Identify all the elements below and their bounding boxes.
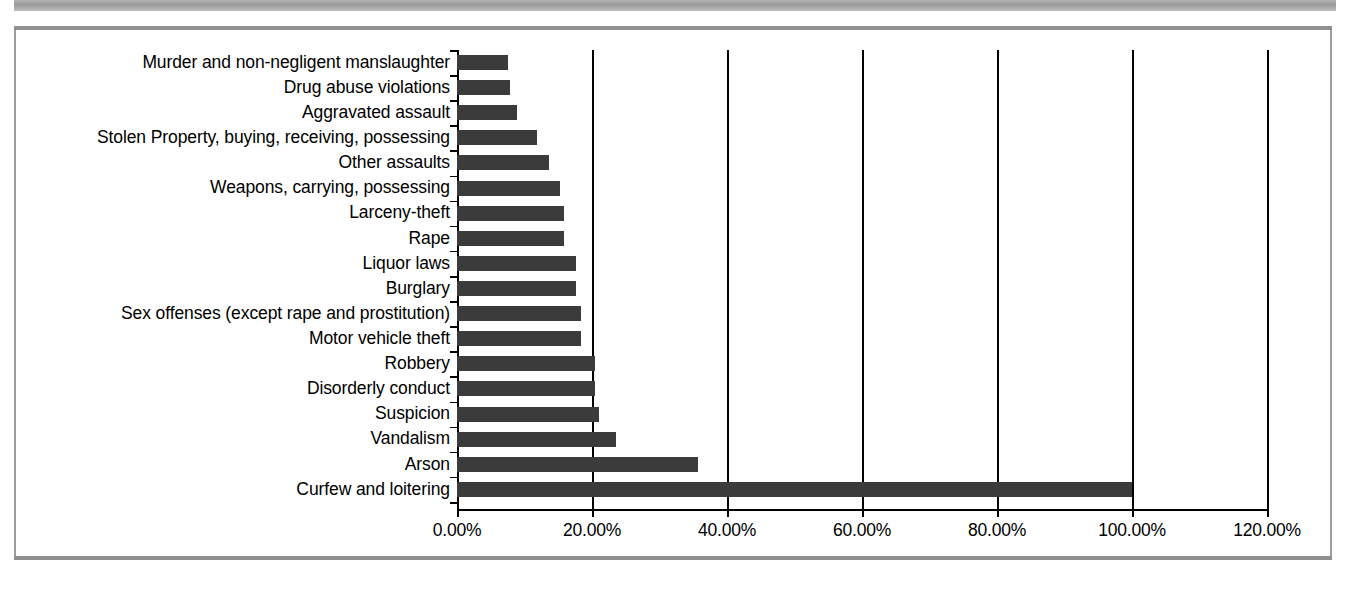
bar [457,130,537,145]
y-axis-tick [450,150,458,152]
y-axis-category-label: Arson [46,452,457,477]
bar [457,407,599,422]
y-axis-category-label: Disorderly conduct [46,376,457,401]
gridline-4 [997,50,999,510]
y-axis-tick [450,452,458,454]
gridline-5 [1132,50,1134,510]
y-axis-category-label: Stolen Property, buying, receiving, poss… [46,125,457,150]
y-axis-tick [450,251,458,253]
bar [457,381,595,396]
bar [457,306,581,321]
bar [457,457,698,472]
y-axis-tick [450,402,458,404]
x-axis-tick-5 [1132,509,1134,517]
plot-area: Murder and non-negligent manslaughterDru… [16,28,1334,562]
y-axis-tick [450,75,458,77]
x-axis-tick-labels: 0.00%20.00%40.00%60.00%80.00%100.00%120.… [457,520,1287,544]
x-axis-tick-4 [997,509,999,517]
gridline-3 [862,50,864,510]
y-axis-category-label: Curfew and loitering [46,477,457,502]
chart-frame: Murder and non-negligent manslaughterDru… [14,26,1332,560]
x-axis-tick-2 [727,509,729,517]
x-axis-tick-3 [862,509,864,517]
y-axis-tick [450,176,458,178]
bar [457,432,616,447]
x-axis-tick-label: 60.00% [833,520,891,541]
y-axis-category-label: Vandalism [46,427,457,452]
x-axis-tick-label: 80.00% [968,520,1026,541]
y-axis-category-label: Motor vehicle theft [46,326,457,351]
y-axis-category-labels: Murder and non-negligent manslaughterDru… [46,50,457,502]
bar [457,155,549,170]
y-axis-tick [450,276,458,278]
y-axis-category-label: Drug abuse violations [46,75,457,100]
y-axis-category-label: Weapons, carrying, possessing [46,176,457,201]
y-axis-tick [450,326,458,328]
x-axis-tick-label: 120.00% [1233,520,1301,541]
bar [457,356,595,371]
y-axis-tick [450,100,458,102]
x-axis-tick-label: 20.00% [563,520,621,541]
y-axis-category-label: Sex offenses (except rape and prostituti… [46,301,457,326]
bar [457,105,517,120]
y-axis-category-label: Murder and non-negligent manslaughter [46,50,457,75]
y-axis-tick [450,201,458,203]
y-axis-category-label: Liquor laws [46,251,457,276]
y-axis-tick [450,125,458,127]
y-axis-category-label: Suspicion [46,402,457,427]
x-axis-tick-label: 100.00% [1098,520,1166,541]
bar [457,482,1132,497]
bar [457,231,564,246]
y-axis-tick [450,477,458,479]
y-axis-category-label: Robbery [46,351,457,376]
gridline-6 [1267,50,1269,510]
x-axis-tick-label: 40.00% [698,520,756,541]
bar [457,256,576,271]
bar [457,55,508,70]
y-axis-tick [450,351,458,353]
y-axis-tick [450,427,458,429]
x-axis-tick-0 [457,509,459,517]
y-axis-tick-end [450,502,458,504]
bar [457,281,576,296]
gridline-2 [727,50,729,510]
y-axis-tick [450,50,458,52]
x-axis-tick-1 [592,509,594,517]
y-axis-category-label: Larceny-theft [46,201,457,226]
bar [457,181,560,196]
x-axis-tick-label: 0.00% [433,520,482,541]
y-axis-category-label: Rape [46,226,457,251]
y-axis-category-label: Burglary [46,276,457,301]
bar [457,331,581,346]
y-axis-tick [450,301,458,303]
y-axis-tick [450,226,458,228]
x-axis-tick-6 [1267,509,1269,517]
y-axis-category-label: Aggravated assault [46,100,457,125]
page-scan-top-strip [14,0,1336,11]
y-axis-tick [450,376,458,378]
bar [457,206,564,221]
y-axis-category-label: Other assaults [46,150,457,175]
bar [457,80,510,95]
